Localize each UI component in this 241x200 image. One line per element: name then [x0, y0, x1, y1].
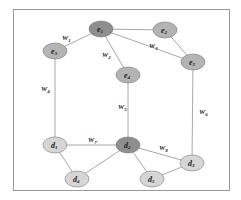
edge-weight-label: W5 [118, 103, 127, 112]
node-e3: e3 [43, 43, 67, 59]
edge-e5-d3 [192, 62, 193, 163]
edge-weight-label: W6 [199, 108, 208, 117]
node-e2: e2 [153, 22, 177, 38]
node-d5: d5 [140, 171, 164, 187]
edge-weight-label: W2 [102, 51, 111, 60]
edge-weight-label: W1 [62, 34, 71, 43]
node-d2: d2 [116, 137, 140, 153]
node-e4: e4 [116, 67, 140, 83]
node-d1: d1 [43, 137, 67, 153]
edge-weight-label: W4 [41, 85, 50, 94]
edge-weight-label: W7 [88, 136, 97, 145]
edge-weight-label: W3 [149, 42, 158, 51]
node-d3: d3 [180, 155, 204, 171]
node-e5: e5 [181, 54, 205, 70]
graph-diagram: W1W2W3W4W5W6W7W8 e1e2e3e4e5d1d2d3d4d5 [0, 0, 241, 200]
node-e1: e1 [89, 21, 113, 37]
edge-weight-label: W8 [159, 144, 168, 153]
node-d4: d4 [65, 171, 89, 187]
